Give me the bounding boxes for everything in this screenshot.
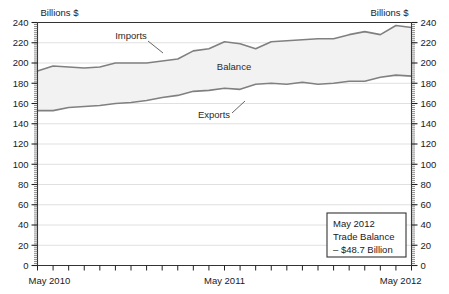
ytick-label-left-40: 40 <box>18 219 29 230</box>
ytick-label-left-60: 60 <box>18 199 29 210</box>
ytick-label-left-20: 20 <box>18 240 29 251</box>
series-label-exports: Exports <box>198 109 230 120</box>
ytick-label-right-200: 200 <box>421 57 437 68</box>
ytick-label-right-120: 120 <box>421 138 437 149</box>
callout-line-2: Trade Balance <box>333 231 394 242</box>
ytick-label-left-220: 220 <box>13 37 29 48</box>
ytick-label-right-20: 20 <box>421 240 432 251</box>
ytick-label-right-80: 80 <box>421 179 432 190</box>
ytick-label-right-60: 60 <box>421 199 432 210</box>
trade-balance-chart: 0020204040606080801001001201201401401601… <box>0 0 449 294</box>
ytick-label-left-80: 80 <box>18 179 29 190</box>
ytick-label-left-120: 120 <box>13 138 29 149</box>
chart-canvas: 0020204040606080801001001201201401401601… <box>0 0 449 294</box>
ytick-label-right-0: 0 <box>421 260 426 271</box>
xtick-label-2: May 2012 <box>380 275 422 286</box>
ytick-label-right-180: 180 <box>421 78 437 89</box>
callout-line-1: May 2012 <box>333 218 375 229</box>
series-label-imports: Imports <box>115 30 147 41</box>
ytick-label-right-160: 160 <box>421 98 437 109</box>
area-label-balance: Balance <box>217 61 251 72</box>
xtick-label-1: May 2011 <box>204 275 245 286</box>
ytick-label-right-140: 140 <box>421 118 437 129</box>
callout-line-3: – $48.7 Billion <box>333 244 393 255</box>
ytick-label-left-160: 160 <box>13 98 29 109</box>
ytick-label-left-140: 140 <box>13 118 29 129</box>
ytick-label-left-100: 100 <box>13 159 29 170</box>
ytick-label-left-0: 0 <box>23 260 28 271</box>
ytick-label-left-200: 200 <box>13 57 29 68</box>
ytick-label-right-240: 240 <box>421 17 437 28</box>
axis-unit-left: Billions $ <box>41 7 80 18</box>
ytick-label-left-240: 240 <box>13 17 29 28</box>
ytick-label-left-180: 180 <box>13 78 29 89</box>
ytick-label-right-220: 220 <box>421 37 437 48</box>
axis-unit-right: Billions $ <box>370 7 409 18</box>
ytick-label-right-100: 100 <box>421 159 437 170</box>
xtick-label-0: May 2010 <box>29 275 71 286</box>
ytick-label-right-40: 40 <box>421 219 432 230</box>
